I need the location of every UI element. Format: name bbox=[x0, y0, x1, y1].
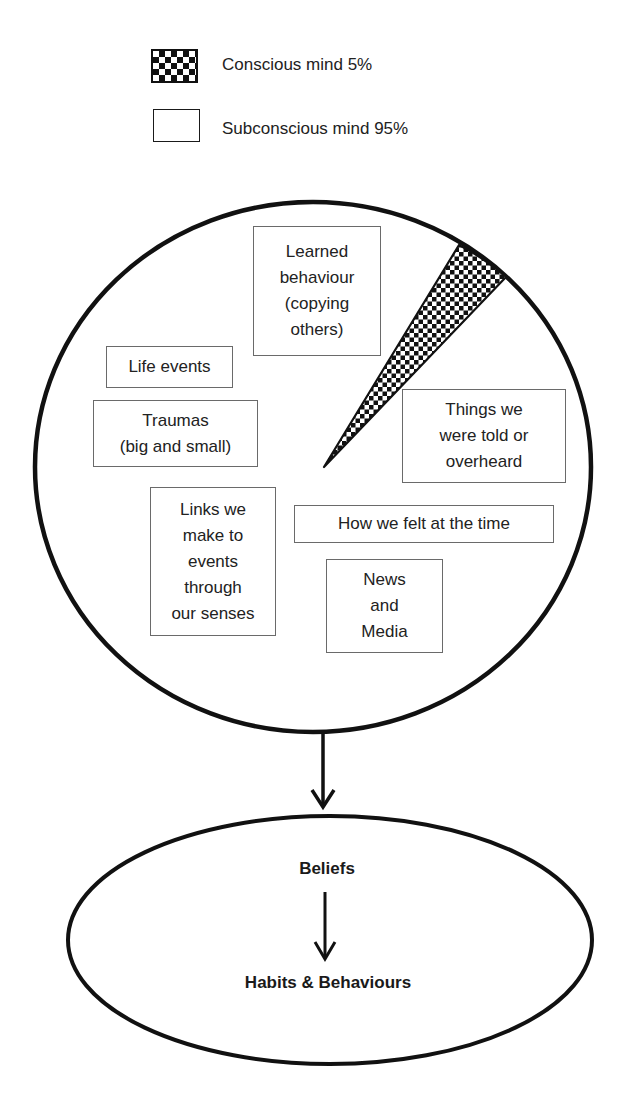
influence-life-events: Life events bbox=[106, 346, 233, 388]
influence-things-told: Things we were told or overheard bbox=[402, 389, 566, 483]
influence-traumas: Traumas (big and small) bbox=[93, 400, 258, 467]
influence-links-senses: Links we make to events through our sens… bbox=[150, 487, 276, 636]
diagram-shapes bbox=[0, 0, 623, 1097]
arrow-down-icon bbox=[312, 733, 334, 807]
influence-how-we-felt: How we felt at the time bbox=[294, 505, 554, 543]
habits-behaviours-label: Habits & Behaviours bbox=[245, 973, 411, 993]
influence-news-media: News and Media bbox=[326, 559, 443, 653]
subconscious-mind-diagram: Conscious mind 5% Subconscious mind 95% bbox=[0, 0, 623, 1097]
influence-learned-behaviour: Learned behaviour (copying others) bbox=[253, 226, 381, 356]
outcome-ellipse bbox=[68, 816, 592, 1064]
beliefs-label: Beliefs bbox=[299, 859, 355, 879]
